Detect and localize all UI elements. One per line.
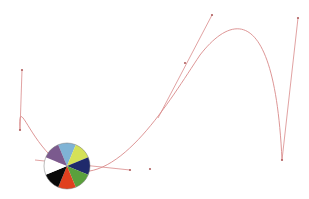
handle-line[interactable]	[158, 15, 212, 118]
handle-line[interactable]	[20, 70, 22, 130]
anchor-point[interactable]	[211, 14, 213, 16]
anchor-point[interactable]	[281, 159, 283, 161]
anchor-point[interactable]	[297, 17, 299, 19]
anchor-point[interactable]	[21, 69, 23, 71]
anchor-point[interactable]	[149, 168, 151, 170]
handle-line[interactable]	[282, 18, 298, 160]
anchor-point[interactable]	[129, 169, 131, 171]
bezier-canvas[interactable]	[0, 0, 309, 199]
color-wheel-icon[interactable]	[44, 143, 90, 189]
anchor-point[interactable]	[184, 62, 186, 64]
anchor-point[interactable]	[19, 129, 21, 131]
